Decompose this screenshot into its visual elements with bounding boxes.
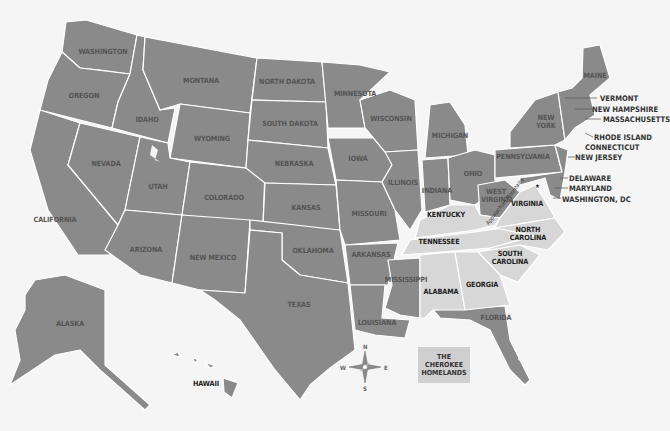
label-missouri: MISSOURI [351,210,386,218]
state-mississippi[interactable] [385,258,420,318]
label-florida: FLORIDA [481,314,512,322]
label-hawaii: HAWAII [193,380,219,388]
label-texas: TEXAS [288,301,311,309]
label-new-mexico: NEW MEXICO [190,254,237,262]
state-indiana[interactable] [422,158,450,212]
state-alaska[interactable] [10,275,150,410]
label-michigan: MICHIGAN [432,132,468,140]
label-alabama: ALABAMA [424,288,459,296]
callout-connecticut: CONNECTICUT [585,144,639,152]
compass-south: S [363,385,367,392]
label-alaska: ALASKA [56,320,84,328]
callout-vermont: VERMONT [600,95,638,103]
label-nebraska: NEBRASKA [275,160,314,168]
label-washington: WASHINGTON [78,48,127,56]
state-new-england[interactable] [558,45,610,140]
label-illinois: ILLINOIS [388,179,418,187]
compass-rose-icon [349,351,381,383]
label-california: CALIFORNIA [34,216,77,224]
label-tennessee: TENNESSEE [419,238,460,246]
state-hawaii[interactable] [172,352,238,398]
legend-cherokee-homelands: THE CHEROKEE HOMELANDS [418,347,470,383]
label-ohio: OHIO [464,170,482,178]
label-south-carolina: SOUTH CAROLINA [490,250,530,266]
state-montana[interactable] [143,37,257,113]
label-iowa: IOWA [348,155,367,163]
label-utah: UTAH [148,183,167,191]
label-oregon: OREGON [69,92,100,100]
callout-massachusetts: MASSACHUSETTS [603,116,670,124]
state-michigan[interactable] [425,102,468,158]
label-oklahoma: OKLAHOMA [292,247,333,255]
callout-maryland: MARYLAND [569,185,612,193]
label-mississippi: MISSISSIPPI [385,276,427,284]
label-north-dakota: NORTH DAKOTA [259,78,315,86]
callout-delaware: DELAWARE [569,175,611,183]
label-maine: MAINE [583,72,606,80]
label-arizona: ARIZONA [130,246,162,254]
label-georgia: GEORGIA [466,281,498,289]
label-montana: MONTANA [183,77,219,85]
label-indiana: INDIANA [422,187,452,195]
compass-east: E [384,364,388,371]
label-north-carolina: NORTH CAROLINA [508,226,548,242]
callout-new-hampshire: NEW HAMPSHIRE [592,106,658,114]
compass-west: W [340,364,346,371]
legend-label: THE CHEROKEE HOMELANDS [418,353,470,377]
label-minnesota: MINNESOTA [334,90,376,98]
label-kentucky: KENTUCKY [427,211,465,219]
label-louisiana: LOUISIANA [358,319,397,327]
callout-new-jersey: NEW JERSEY [575,154,622,162]
capital-star-icon: ★ [535,182,540,189]
lake-okeechobee [518,355,524,361]
label-wyoming: WYOMING [194,135,230,143]
label-colorado: COLORADO [204,194,244,202]
label-nevada: NEVADA [91,160,120,168]
callout-washington-dc: WASHINGTON, DC [562,196,631,204]
label-virginia: VIRGINIA [511,200,543,208]
label-south-dakota: SOUTH DAKOTA [262,120,318,128]
compass-north: N [363,343,368,350]
label-arkansas: ARKANSAS [352,251,391,259]
label-wisconsin: WISCONSIN [370,115,411,123]
label-kansas: KANSAS [291,204,320,212]
label-new-york: NEW YORK [535,114,557,130]
label-pennsylvania: PENNSYLVANIA [496,153,550,161]
callout-rhode-island: RHODE ISLAND [594,134,652,142]
label-idaho: IDAHO [135,116,158,124]
